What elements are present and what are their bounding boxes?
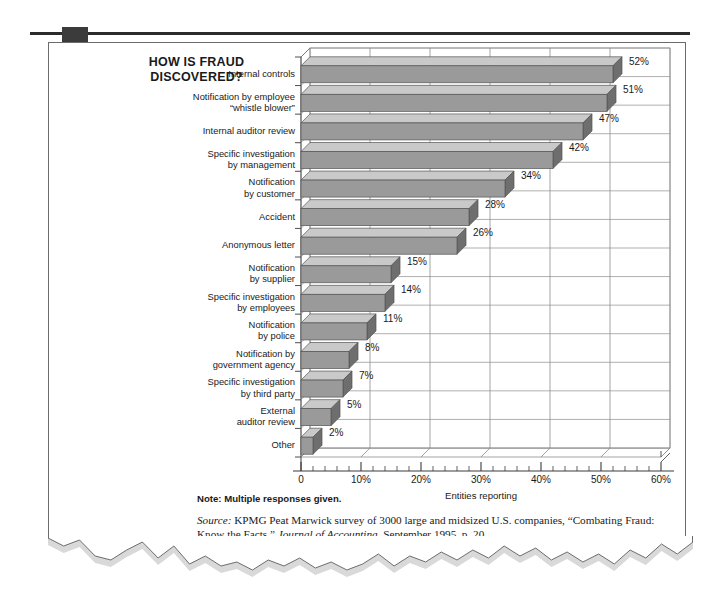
bar-group	[301, 257, 400, 283]
bar-group	[301, 114, 592, 140]
category-label: Specific investigationby third party	[145, 376, 295, 398]
category-label: Accident	[145, 211, 295, 222]
category-label: Specific investigationby employees	[145, 291, 295, 313]
bar-top-face	[301, 114, 592, 123]
bar-top-face	[301, 257, 400, 266]
bar-group	[301, 343, 358, 369]
category-label-line: Specific investigation	[145, 291, 295, 302]
torn-paper-edge	[48, 536, 693, 582]
bar-front-face	[301, 437, 313, 454]
bar-group	[301, 371, 352, 397]
bar-value-label: 34%	[521, 170, 541, 181]
bar-top-face	[301, 285, 394, 294]
bar-front-face	[301, 380, 343, 397]
bar-group	[301, 285, 394, 311]
category-label: Notificationby police	[145, 319, 295, 341]
category-label: Internal auditor review	[145, 125, 295, 136]
bar-top-face	[301, 85, 616, 94]
category-label-line: Notification by	[145, 348, 295, 359]
bar-group	[301, 228, 466, 254]
category-label-line: Accident	[145, 211, 295, 222]
bar-value-label: 8%	[365, 342, 379, 353]
bar-value-label: 2%	[329, 427, 343, 438]
bar-value-label: 7%	[359, 370, 373, 381]
note-text: Note: Multiple responses given.	[197, 493, 341, 504]
torn-edge-svg	[48, 536, 693, 582]
bar-front-face	[301, 409, 331, 426]
bar-value-label: 26%	[473, 227, 493, 238]
bar-value-label: 42%	[569, 142, 589, 153]
category-label-line: by third party	[145, 388, 295, 399]
category-label: Notificationby customer	[145, 176, 295, 198]
bar-front-face	[301, 266, 391, 283]
category-label-line: Notification	[145, 319, 295, 330]
category-label-line: by police	[145, 330, 295, 341]
category-label: Anonymous letter	[145, 239, 295, 250]
bar-top-face	[301, 171, 514, 180]
category-label-line: by supplier	[145, 273, 295, 284]
bar-group	[301, 171, 514, 197]
chart-plot-area: 52%Internal controls51%Notification by e…	[49, 43, 687, 503]
category-label-line: Specific investigation	[145, 148, 295, 159]
bar-front-face	[301, 352, 349, 369]
x-axis-tick-label: 0	[281, 474, 321, 485]
category-label: Specific investigationby management	[145, 148, 295, 170]
bar-group	[301, 85, 616, 111]
x-axis-tick-label: 40%	[521, 474, 561, 485]
category-label-line: Internal auditor review	[145, 125, 295, 136]
bar-front-face	[301, 66, 613, 83]
figure-card: HOW IS FRAUD DISCOVERED? 52%Internal con…	[48, 42, 686, 542]
category-label-line: “whistle blower”	[145, 102, 295, 113]
bar-value-label: 14%	[401, 284, 421, 295]
bar-top-face	[301, 57, 622, 66]
top-rule-line	[30, 32, 690, 35]
category-label: Externalauditor review	[145, 405, 295, 427]
bar-front-face	[301, 180, 505, 197]
x-axis-tick-label: 50%	[581, 474, 621, 485]
category-label-line: Notification	[145, 262, 295, 273]
bar-top-face	[301, 343, 358, 352]
category-label-line: by customer	[145, 188, 295, 199]
x-axis-tick-label: 10%	[341, 474, 381, 485]
x-axis-tick-label: 20%	[401, 474, 441, 485]
category-label: Notification by employee“whistle blower”	[145, 91, 295, 113]
x-axis-tick-label: 60%	[641, 474, 681, 485]
bar-top-face	[301, 314, 376, 323]
bar-top-face	[301, 200, 478, 209]
bar-value-label: 15%	[407, 256, 427, 267]
bar-front-face	[301, 123, 583, 140]
category-label-line: Specific investigation	[145, 376, 295, 387]
category-label-line: Anonymous letter	[145, 239, 295, 250]
category-label-line: by management	[145, 159, 295, 170]
bar-front-face	[301, 209, 469, 226]
bar-top-face	[301, 228, 466, 237]
category-label-line: Notification	[145, 176, 295, 187]
bar-group	[301, 314, 376, 340]
bar-front-face	[301, 237, 457, 254]
bar-group	[301, 200, 478, 226]
bar-value-label: 52%	[629, 56, 649, 67]
bar-front-face	[301, 152, 553, 169]
category-label-line: Other	[145, 439, 295, 450]
bar-value-label: 11%	[383, 313, 402, 324]
category-label-line: Notification by employee	[145, 91, 295, 102]
category-label: Internal controls	[145, 68, 295, 79]
bar-front-face	[301, 294, 385, 311]
bar-group	[301, 400, 340, 426]
x-axis-tick-label: 30%	[461, 474, 501, 485]
bar-front-face	[301, 94, 607, 111]
source-label: Source:	[197, 514, 231, 526]
bar-group	[301, 143, 562, 169]
bar-top-face	[301, 143, 562, 152]
category-label-line: by employees	[145, 302, 295, 313]
top-rule-square-marker	[62, 27, 88, 43]
bar-value-label: 51%	[623, 84, 643, 95]
bar-value-label: 47%	[599, 113, 619, 124]
category-label-line: Internal controls	[145, 68, 295, 79]
category-label: Notificationby supplier	[145, 262, 295, 284]
bar-value-label: 5%	[347, 399, 361, 410]
bar-group	[301, 57, 622, 83]
bar-value-label: 28%	[485, 199, 505, 210]
category-label-line: auditor review	[145, 416, 295, 427]
category-label: Notification bygovernment agency	[145, 348, 295, 370]
